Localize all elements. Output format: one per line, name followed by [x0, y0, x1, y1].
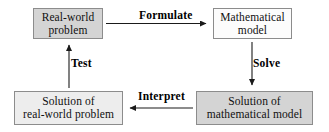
node-solution-of-mathematical-model-label: Solution of mathematical model — [207, 95, 302, 121]
edge-label-test: Test — [71, 57, 92, 69]
node-mathematical-model-label: Mathematical model — [220, 11, 284, 37]
node-solution-of-mathematical-model: Solution of mathematical model — [196, 91, 313, 125]
node-solution-of-real-world-problem-label: Solution of real-world problem — [23, 95, 114, 121]
modeling-cycle-diagram: Real-world problem Mathematical model So… — [0, 0, 329, 132]
node-real-world-problem-label: Real-world problem — [42, 11, 95, 37]
edge-label-solve: Solve — [253, 57, 280, 69]
edge-label-formulate: Formulate — [139, 9, 193, 21]
node-real-world-problem: Real-world problem — [33, 8, 103, 39]
node-mathematical-model: Mathematical model — [213, 8, 292, 39]
node-solution-of-real-world-problem: Solution of real-world problem — [14, 91, 123, 125]
edge-label-interpret: Interpret — [138, 90, 185, 102]
